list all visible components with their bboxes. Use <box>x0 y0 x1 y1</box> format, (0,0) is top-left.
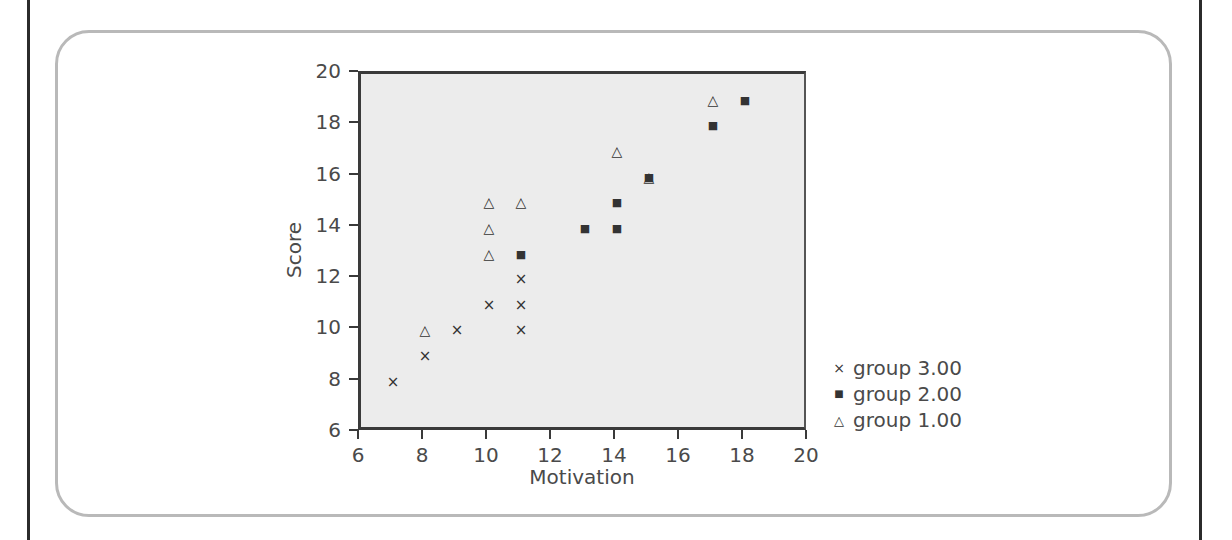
triangle-marker-icon: △ <box>484 247 495 261</box>
legend-item-label: group 1.00 <box>853 408 962 432</box>
x-axis-tick <box>613 430 615 439</box>
cross-marker-icon: × <box>515 272 528 287</box>
cross-marker-icon: × <box>483 297 496 312</box>
page-margin-rule-right <box>1199 0 1202 540</box>
cross-marker-icon: × <box>387 374 400 389</box>
triangle-marker-icon: △ <box>708 93 719 107</box>
y-axis-tick-label: 8 <box>328 367 341 391</box>
y-axis-tick-label: 12 <box>316 264 341 288</box>
triangle-marker-icon: △ <box>484 221 495 235</box>
y-axis-tick <box>349 378 358 380</box>
y-axis-tick-label: 18 <box>316 110 341 134</box>
scatter-chart: ×××××××■■■■■■■△△△△△△△△ 68101214161820 68… <box>58 33 1175 520</box>
square-marker-icon: ■ <box>612 222 622 233</box>
legend-item: △group 1.00 <box>830 407 962 433</box>
x-axis-tick-label: 20 <box>793 443 818 467</box>
x-axis-tick <box>549 430 551 439</box>
data-points-layer: ×××××××■■■■■■■△△△△△△△△ <box>361 74 804 427</box>
y-axis-tick <box>349 224 358 226</box>
x-axis-tick <box>421 430 423 439</box>
triangle-marker-icon: △ <box>484 195 495 209</box>
x-axis-tick <box>741 430 743 439</box>
y-axis-tick-label: 20 <box>316 59 341 83</box>
chart-legend: ×group 3.00■group 2.00△group 1.00 <box>830 355 962 433</box>
x-axis-tick <box>805 430 807 439</box>
x-axis-title: Motivation <box>529 465 634 489</box>
y-axis-tick <box>349 173 358 175</box>
plot-area: ×××××××■■■■■■■△△△△△△△△ <box>358 71 806 430</box>
x-axis-tick-label: 8 <box>416 443 429 467</box>
x-axis-tick-label: 16 <box>665 443 690 467</box>
x-axis-tick-label: 18 <box>729 443 754 467</box>
cross-marker-icon: × <box>451 323 464 338</box>
triangle-marker-icon: △ <box>516 195 527 209</box>
x-axis-tick-label: 12 <box>537 443 562 467</box>
y-axis-tick <box>349 121 358 123</box>
x-axis-tick <box>485 430 487 439</box>
x-axis-tick-label: 10 <box>473 443 498 467</box>
square-marker-icon: ■ <box>830 389 848 399</box>
y-axis-tick <box>349 275 358 277</box>
legend-item: ×group 3.00 <box>830 355 962 381</box>
triangle-marker-icon: △ <box>644 170 655 184</box>
square-marker-icon: ■ <box>708 120 718 131</box>
triangle-marker-icon: △ <box>420 323 431 337</box>
square-marker-icon: ■ <box>580 222 590 233</box>
square-marker-icon: ■ <box>612 197 622 208</box>
y-axis-tick-label: 10 <box>316 315 341 339</box>
x-axis-tick-label: 14 <box>601 443 626 467</box>
square-marker-icon: ■ <box>516 248 526 259</box>
legend-item: ■group 2.00 <box>830 381 962 407</box>
x-axis-tick <box>677 430 679 439</box>
cross-marker-icon: × <box>515 323 528 338</box>
y-axis-tick-label: 14 <box>316 213 341 237</box>
y-axis-title: Score <box>282 222 306 278</box>
y-axis-tick-label: 16 <box>316 162 341 186</box>
square-marker-icon: ■ <box>740 94 750 105</box>
cross-marker-icon: × <box>515 297 528 312</box>
x-axis-tick-label: 6 <box>352 443 365 467</box>
cross-marker-icon: × <box>419 349 432 364</box>
figure-panel: ×××××××■■■■■■■△△△△△△△△ 68101214161820 68… <box>55 30 1172 517</box>
y-axis-tick <box>349 326 358 328</box>
triangle-marker-icon: △ <box>612 144 623 158</box>
page-margin-rule-left <box>27 0 30 540</box>
legend-item-label: group 3.00 <box>853 356 962 380</box>
cross-marker-icon: × <box>830 361 848 375</box>
y-axis-tick-label: 6 <box>328 418 341 442</box>
x-axis-tick <box>357 430 359 439</box>
y-axis-tick <box>349 70 358 72</box>
legend-item-label: group 2.00 <box>853 382 962 406</box>
triangle-marker-icon: △ <box>830 414 848 427</box>
